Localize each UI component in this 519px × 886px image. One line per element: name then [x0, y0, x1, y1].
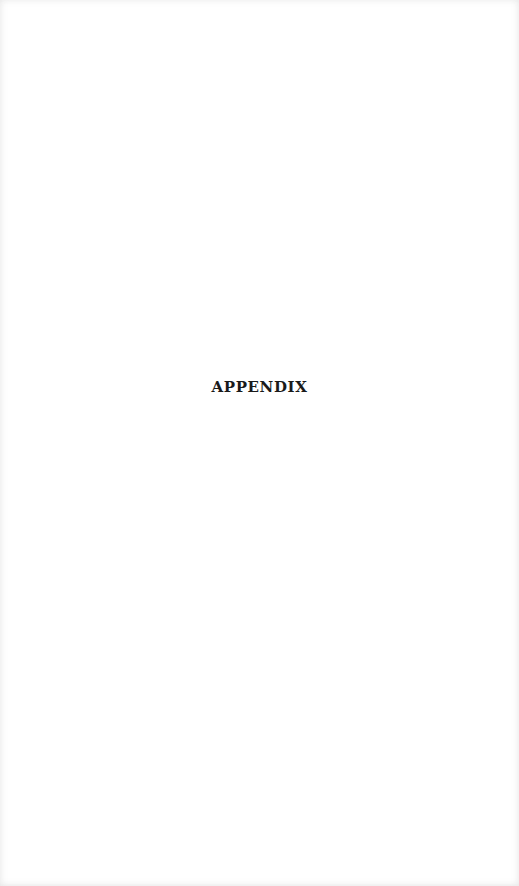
document-page: APPENDIX [0, 0, 519, 886]
section-heading: APPENDIX [0, 378, 519, 396]
